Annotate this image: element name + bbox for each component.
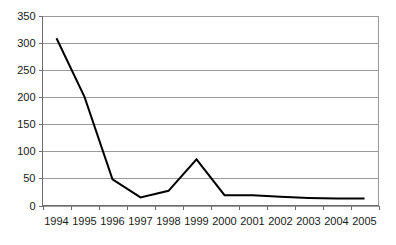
x-tick-label-2005: 2005 (352, 215, 376, 227)
x-tick-label-2004: 2004 (324, 215, 348, 227)
x-tick-label-1995: 1995 (72, 215, 96, 227)
y-tick-label-250: 250 (17, 64, 35, 76)
chart-canvas: 050100150200250300350 199419951996199719… (0, 0, 396, 245)
x-tick-label-1999: 1999 (184, 215, 208, 227)
y-tick-label-300: 300 (17, 37, 35, 49)
x-tick-label-1998: 1998 (156, 215, 180, 227)
y-tick-label-150: 150 (17, 118, 35, 130)
y-tick-label-0: 0 (29, 200, 35, 212)
x-tick-label-2001: 2001 (240, 215, 264, 227)
line-chart: 050100150200250300350 199419951996199719… (0, 0, 396, 245)
x-tick-label-1996: 1996 (100, 215, 124, 227)
x-tick-label-2000: 2000 (212, 215, 236, 227)
x-tick-label-2002: 2002 (268, 215, 292, 227)
y-tick-label-200: 200 (17, 91, 35, 103)
chart-background (0, 0, 396, 245)
y-tick-label-50: 50 (23, 172, 35, 184)
x-tick-label-1997: 1997 (128, 215, 152, 227)
y-tick-label-100: 100 (17, 145, 35, 157)
y-tick-label-350: 350 (17, 10, 35, 22)
x-tick-label-1994: 1994 (44, 215, 68, 227)
x-tick-label-2003: 2003 (296, 215, 320, 227)
